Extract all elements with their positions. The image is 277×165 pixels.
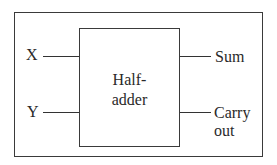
output-sum-wire (180, 56, 211, 57)
block-label-line2: adder (79, 90, 180, 110)
output-carry-label-line2: out (214, 122, 234, 140)
output-sum-label: Sum (215, 48, 244, 66)
output-carry-wire (180, 112, 211, 113)
output-carry-label-line1: Carry (214, 104, 250, 122)
input-x-wire (43, 56, 79, 57)
block-label-line1: Half- (79, 70, 180, 90)
input-y-label: Y (27, 103, 39, 121)
input-x-label: X (26, 46, 38, 64)
input-y-wire (43, 112, 79, 113)
